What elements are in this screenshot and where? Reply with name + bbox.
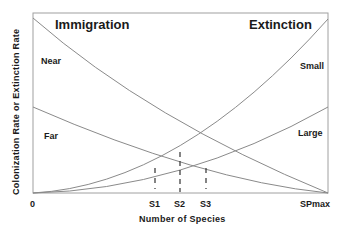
x-tick-s2: S2: [174, 200, 185, 209]
label-large: Large: [298, 129, 323, 138]
x-tick-spmax: SPmax: [300, 200, 330, 209]
extinction-title: Extinction: [249, 18, 312, 31]
curve-extinction-small: [33, 19, 328, 193]
island-biogeography-plot: [0, 0, 341, 232]
x-tick-s3: S3: [200, 200, 211, 209]
label-far: Far: [44, 132, 58, 141]
x-tick-0: 0: [30, 200, 35, 209]
label-near: Near: [41, 57, 61, 66]
x-axis-label: Number of Species: [139, 215, 226, 224]
immigration-title: Immigration: [55, 18, 129, 31]
x-tick-s1: S1: [149, 200, 160, 209]
curve-immigration-near: [33, 18, 328, 193]
label-small: Small: [300, 62, 324, 71]
y-axis-label: Colonization Rate or Extinction Rate: [12, 29, 21, 195]
